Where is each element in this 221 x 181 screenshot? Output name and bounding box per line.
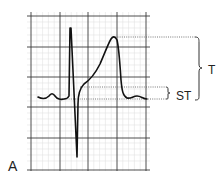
panel-label: A — [8, 158, 17, 174]
t-wave-label: T — [208, 63, 215, 77]
minor-grid — [27, 12, 150, 171]
st-segment-label: ST — [176, 89, 191, 103]
t-brace — [195, 37, 202, 100]
st-brace — [166, 87, 170, 99]
major-grid — [27, 12, 150, 171]
